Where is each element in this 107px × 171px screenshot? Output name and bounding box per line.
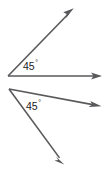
lower-shallow-ray [9, 89, 94, 105]
upper-diagonal-ray [8, 14, 69, 76]
upper-angle-value: 45 [23, 60, 35, 72]
upper-angle-degree-symbol: ° [35, 59, 38, 66]
angles-svg-canvas [0, 0, 107, 171]
lower-angle-figure [9, 89, 102, 164]
lower-angle-value: 45 [26, 100, 38, 112]
upper-angle-label: 45° [23, 59, 38, 71]
lower-angle-degree-symbol: ° [38, 99, 41, 106]
geometry-diagram: 45° 45° [0, 0, 107, 171]
lower-angle-label: 45° [26, 99, 41, 111]
